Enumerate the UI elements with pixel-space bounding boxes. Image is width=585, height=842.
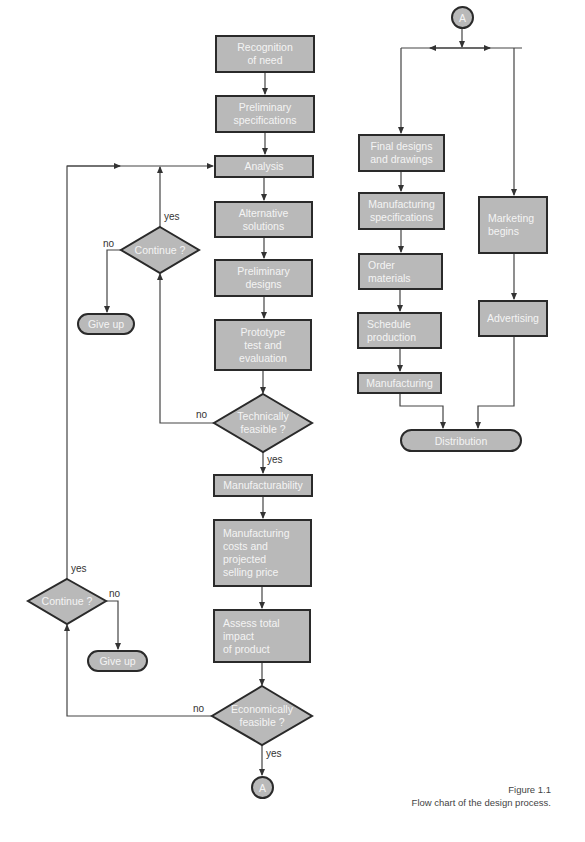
marketing-begins-box: Marketing begins	[478, 196, 548, 254]
distribution-terminal: Distribution	[400, 429, 522, 452]
connector-a-in: A	[451, 6, 474, 29]
flowchart-canvas: Recognition of need Preliminary specific…	[0, 0, 585, 842]
tech-no-label: no	[196, 409, 207, 420]
alternative-solutions-box: Alternative solutions	[214, 201, 313, 238]
assess-impact-box: Assess total impact of product	[213, 609, 311, 663]
connector-a-out: A	[251, 776, 274, 799]
upper-yes-label: yes	[164, 211, 180, 222]
upper-continue-label: Continue ?	[135, 244, 186, 257]
lower-no-label: no	[109, 588, 120, 599]
final-designs-box: Final designs and drawings	[358, 134, 445, 172]
prototype-test-box: Prototype test and evaluation	[214, 319, 312, 371]
tech-feasible-label: Technically feasible ?	[237, 410, 288, 436]
figure-number: Figure 1.1	[508, 784, 551, 795]
econ-feasible-label: Economically feasible ?	[231, 703, 293, 729]
figure-caption: Flow chart of the design process.	[412, 797, 551, 808]
upper-give-up-terminal: Give up	[77, 313, 135, 335]
analysis-box: Analysis	[214, 155, 314, 178]
mfg-specs-box: Manufacturing specifications	[358, 192, 445, 230]
preliminary-specifications-box: Preliminary specifications	[215, 95, 315, 133]
lower-yes-label: yes	[71, 563, 87, 574]
recognition-of-need-box: Recognition of need	[215, 35, 315, 73]
order-materials-box: Order materials	[358, 253, 443, 290]
lower-continue-label: Continue ?	[42, 595, 93, 608]
lower-give-up-terminal: Give up	[87, 650, 148, 672]
upper-no-label: no	[103, 238, 114, 249]
schedule-production-box: Schedule production	[357, 312, 442, 349]
advertising-box: Advertising	[478, 300, 548, 337]
manufacturability-box: Manufacturability	[213, 474, 313, 497]
manufacturing-box: Manufacturing	[357, 372, 442, 394]
mfg-costs-box: Manufacturing costs and projected sellin…	[213, 519, 312, 587]
econ-yes-label: yes	[266, 748, 282, 759]
tech-yes-label: yes	[267, 454, 283, 465]
preliminary-designs-box: Preliminary designs	[214, 259, 313, 297]
econ-no-label: no	[193, 703, 204, 714]
